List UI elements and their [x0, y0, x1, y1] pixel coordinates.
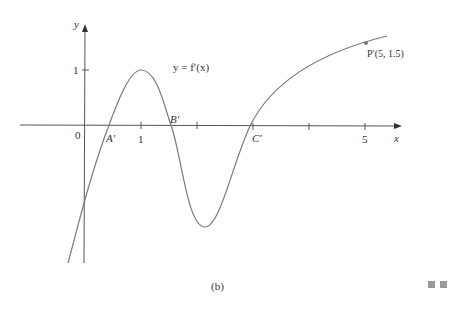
point-b-label: B′ — [170, 113, 180, 125]
x-tick-label-1: 1 — [138, 133, 144, 145]
caption: (b) — [211, 280, 224, 293]
y-axis-label: y — [73, 18, 79, 30]
point-a-label: A′ — [105, 132, 116, 144]
x-axis — [20, 125, 398, 126]
decor-square-icon — [428, 281, 435, 288]
x-axis-arrow-icon — [394, 123, 402, 129]
y-axis — [84, 28, 85, 263]
y-tick-label-1: 1 — [73, 64, 79, 76]
point-p-label: P′(5, 1.5) — [367, 48, 404, 60]
derivative-graph: y x 0 1 5 1 y = f′(x) A′ B′ C′ P′(5, 1.5… — [0, 0, 450, 309]
origin-label: 0 — [75, 129, 81, 141]
x-tick-label-5: 5 — [362, 133, 368, 145]
point-c-label: C′ — [252, 132, 262, 144]
x-axis-label: x — [393, 132, 399, 144]
decor-square-icon — [440, 281, 447, 288]
curve-label: y = f′(x) — [173, 61, 209, 74]
point-p — [364, 41, 368, 45]
derivative-curve — [68, 36, 387, 263]
y-axis-arrow-icon — [82, 24, 88, 32]
